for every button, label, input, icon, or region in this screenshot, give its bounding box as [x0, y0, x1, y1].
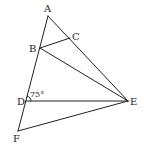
diagram-canvas: A B C D E F 75° — [0, 0, 144, 156]
label-e: E — [130, 96, 137, 107]
geometry-diagram: A B C D E F 75° — [0, 0, 144, 156]
segment-ae — [48, 16, 128, 101]
label-b: B — [29, 43, 36, 54]
segment-fe — [18, 101, 128, 131]
label-a: A — [43, 3, 52, 14]
label-f: F — [13, 133, 20, 144]
label-c: C — [72, 31, 80, 42]
segment-bc — [40, 38, 70, 48]
angle-label-75: 75° — [30, 90, 44, 99]
label-d: D — [17, 96, 25, 107]
segment-af — [18, 16, 48, 131]
segment-be — [40, 48, 128, 101]
